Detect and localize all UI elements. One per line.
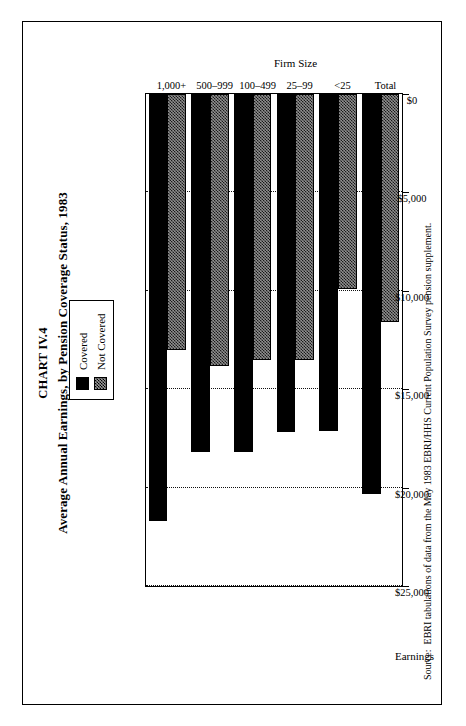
source-label: Source: bbox=[422, 649, 433, 680]
value-tick-label: $5,000 bbox=[398, 193, 427, 204]
bar-covered bbox=[191, 94, 210, 452]
legend-label-not-covered: Not Covered bbox=[95, 313, 107, 370]
category-tick-label: 25–99 bbox=[287, 80, 313, 91]
value-axis: $25,000$20,000$15,000$10,000$5,000$0 bbox=[403, 93, 404, 587]
figure-page: CHART IV.4 Average Annual Earnings, by P… bbox=[0, 0, 466, 726]
legend-label-covered: Covered bbox=[77, 333, 89, 370]
category-axis-title: Firm Size bbox=[274, 57, 317, 69]
bar-group bbox=[362, 94, 399, 586]
category-tick-label: 500–999 bbox=[196, 80, 233, 91]
bar-not-covered bbox=[381, 94, 400, 322]
bar-covered bbox=[319, 94, 338, 431]
solid-black-swatch-icon bbox=[76, 377, 89, 390]
category-tick-label: Total bbox=[374, 80, 395, 91]
category-tick-label: 1,000+ bbox=[157, 80, 187, 91]
source-text: EBRI tabulations of data from the May 19… bbox=[422, 223, 433, 645]
title-block: CHART IV.4 Average Annual Earnings, by P… bbox=[36, 21, 71, 705]
bar-group bbox=[234, 94, 271, 586]
bars-container bbox=[146, 94, 402, 586]
plot-area bbox=[145, 93, 403, 587]
source-note: Source: EBRI tabulations of data from th… bbox=[422, 223, 433, 680]
bar-not-covered bbox=[338, 94, 357, 289]
legend-item-not-covered: Not Covered bbox=[94, 313, 107, 390]
bar-covered bbox=[362, 94, 381, 494]
bar-group bbox=[149, 94, 186, 586]
legend-item-covered: Covered bbox=[76, 313, 89, 390]
rotated-figure-canvas: CHART IV.4 Average Annual Earnings, by P… bbox=[22, 21, 442, 705]
value-tick-label: $0 bbox=[407, 95, 418, 106]
bar-group bbox=[277, 94, 314, 586]
bar-group bbox=[319, 94, 356, 586]
category-tick-label: <25 bbox=[334, 80, 350, 91]
bar-not-covered bbox=[295, 94, 314, 360]
bar-covered bbox=[277, 94, 296, 432]
gray-hatch-swatch-icon bbox=[94, 377, 107, 390]
bar-not-covered bbox=[167, 94, 186, 350]
bar-not-covered bbox=[210, 94, 229, 366]
bar-not-covered bbox=[253, 94, 272, 360]
bar-group bbox=[191, 94, 228, 586]
bar-covered bbox=[234, 94, 253, 452]
chart-number: CHART IV.4 bbox=[36, 21, 52, 705]
bar-covered bbox=[149, 94, 168, 521]
category-tick-label: 100–499 bbox=[239, 80, 276, 91]
legend: Covered Not Covered bbox=[69, 300, 114, 400]
